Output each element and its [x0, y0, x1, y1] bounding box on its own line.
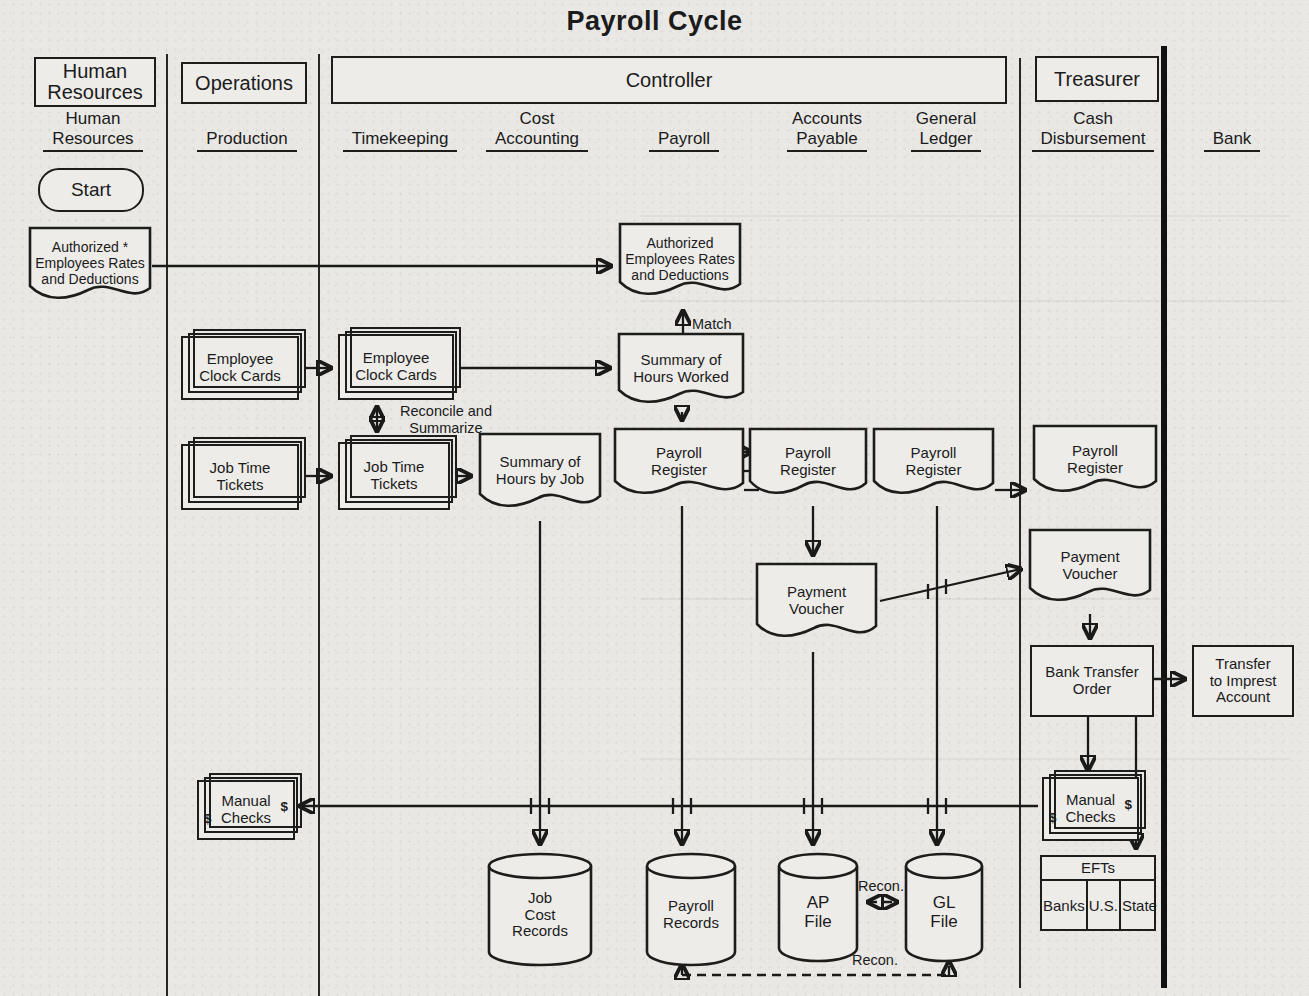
payroll-cycle-flowchart: Payroll Cycle Human Resources Operations… — [0, 0, 1309, 996]
efts-table: EFTs Banks U.S. State — [1040, 855, 1156, 931]
edge-label-recon-bottom: Recon. — [852, 952, 898, 969]
document-authorized-employees-rates-payroll: Authorized Employees Rates and Deduction… — [618, 222, 742, 308]
document-label: Authorized * Employees Rates and Deducti… — [35, 240, 145, 287]
datastore-label: GL File — [930, 893, 957, 931]
edge-label-reconcile-summarize: Reconcile and Summarize — [390, 403, 502, 436]
document-payroll-register-gl: Payroll Register — [872, 427, 995, 507]
document-payment-voucher-ap: Payment Voucher — [755, 562, 878, 652]
document-label: Job Time Tickets — [364, 459, 425, 493]
efts-cell-state: State — [1119, 881, 1158, 929]
datastore-label: Payroll Records — [663, 898, 719, 932]
document-label: Employee Clock Cards — [199, 351, 281, 385]
document-payroll-register-payroll: Payroll Register — [613, 427, 745, 507]
datastore-gl-file: GL File — [902, 852, 986, 964]
document-label: Job Time Tickets — [210, 460, 271, 494]
document-stack-job-time-tickets-timekeeping: Job Time Tickets — [338, 442, 450, 510]
dollar-sign: $ — [280, 799, 288, 814]
start-terminal: Start — [38, 168, 144, 212]
document-label: Summary of Hours Worked — [633, 352, 729, 386]
document-label: Authorized Employees Rates and Deduction… — [625, 236, 735, 283]
datastore-ap-file: AP File — [775, 852, 861, 964]
document-authorized-employees-rates-hr: Authorized * Employees Rates and Deducti… — [28, 226, 152, 312]
document-label: Payment Voucher — [1060, 549, 1119, 583]
document-stack-employee-clock-cards-timekeeping: Employee Clock Cards — [338, 334, 454, 400]
document-label: Employee Clock Cards — [355, 350, 437, 384]
process-label: Bank Transfer Order — [1045, 664, 1138, 698]
dollar-sign: $ — [1049, 810, 1057, 825]
document-payment-voucher-cd: Payment Voucher — [1028, 528, 1152, 614]
document-label: Payroll Register — [906, 445, 962, 479]
document-label: Payroll Register — [1067, 443, 1123, 477]
document-payroll-register-ap: Payroll Register — [748, 427, 868, 507]
process-label: Transfer to Imprest Account — [1210, 656, 1277, 707]
datastore-label: Job Cost Records — [512, 890, 568, 941]
document-summary-hours-by-job: Summary of Hours by Job — [478, 432, 602, 522]
edge-label-match: Match — [692, 316, 732, 333]
document-label: Summary of Hours by Job — [496, 454, 584, 488]
document-label: Payroll Register — [780, 445, 836, 479]
dollar-sign: $ — [1124, 797, 1132, 812]
document-stack-job-time-tickets-production: Job Time Tickets — [181, 444, 299, 510]
process-transfer-to-imprest-account: Transfer to Imprest Account — [1192, 645, 1294, 717]
document-label: Payment Voucher — [787, 584, 846, 618]
document-summary-hours-worked: Summary of Hours Worked — [617, 332, 745, 416]
document-stack-employee-clock-cards-production: Employee Clock Cards — [181, 336, 299, 400]
datastore-job-cost-records: Job Cost Records — [485, 852, 595, 968]
dollar-sign: $ — [204, 811, 212, 826]
process-bank-transfer-order: Bank Transfer Order — [1030, 645, 1154, 717]
efts-cell-us: U.S. — [1086, 881, 1119, 929]
document-stack-manual-checks-cd: $ Manual Checks $ — [1042, 777, 1139, 841]
document-label: Manual Checks — [221, 793, 271, 827]
start-label: Start — [71, 179, 111, 200]
document-label: Manual Checks — [1065, 792, 1115, 826]
efts-header: EFTs — [1042, 857, 1154, 881]
edge-label-recon-top: Recon. — [858, 878, 904, 895]
datastore-payroll-records: Payroll Records — [643, 852, 739, 968]
document-payroll-register-cd: Payroll Register — [1032, 424, 1158, 505]
document-label: Payroll Register — [651, 445, 707, 479]
efts-cell-banks: Banks — [1042, 881, 1086, 929]
document-stack-manual-checks-left: $ Manual Checks $ — [197, 780, 295, 840]
datastore-label: AP File — [804, 893, 831, 931]
